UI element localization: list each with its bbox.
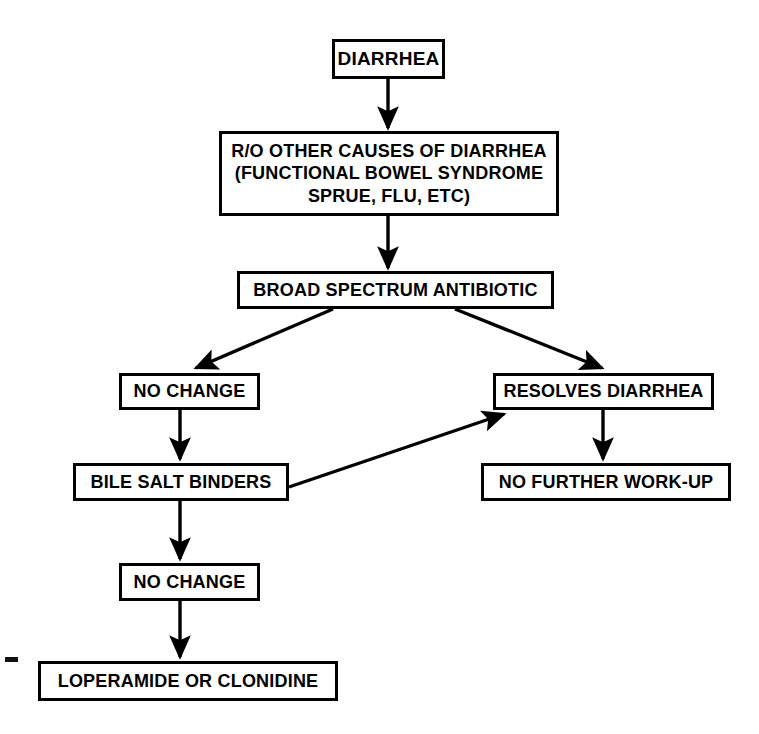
- edge-antibiotic-to-no-change: [196, 309, 333, 368]
- node-loperamide-or-clonidine: LOPERAMIDE OR CLONIDINE: [38, 661, 338, 701]
- edge-antibiotic-to-resolves: [455, 309, 602, 368]
- node-no-further-work-up: NO FURTHER WORK-UP: [481, 463, 731, 501]
- edge-bile-salt-to-resolves: [289, 414, 504, 487]
- node-diarrhea: DIARRHEA: [332, 39, 445, 79]
- flowchart-canvas: DIARRHEA R/O OTHER CAUSES OF DIARRHEA (F…: [0, 0, 759, 734]
- node-broad-spectrum-antibiotic: BROAD SPECTRUM ANTIBIOTIC: [237, 271, 554, 309]
- node-no-change-first: NO CHANGE: [119, 373, 260, 410]
- node-resolves-diarrhea: RESOLVES DIARRHEA: [493, 373, 714, 410]
- flowchart-edges: [0, 0, 759, 734]
- node-no-change-second: NO CHANGE: [119, 563, 260, 601]
- scan-artifact-speck: [5, 657, 18, 662]
- node-bile-salt-binders: BILE SALT BINDERS: [73, 463, 289, 501]
- node-rule-out-other-causes: R/O OTHER CAUSES OF DIARRHEA (FUNCTIONAL…: [219, 131, 559, 216]
